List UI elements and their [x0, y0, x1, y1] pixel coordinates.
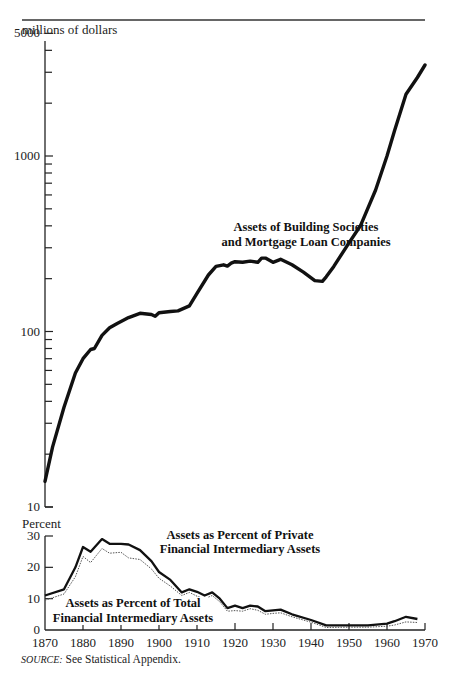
total-annotation-line2: Financial Intermediary Assets — [53, 611, 214, 625]
building-societies-assets-line — [45, 65, 425, 481]
x-tick-label: 1930 — [260, 635, 286, 650]
upper-y-tick-labels: 5000100010010 — [14, 25, 40, 514]
x-tick-label: 1960 — [374, 635, 400, 650]
chart-figure: millions of dollars 5000100010010 Assets… — [0, 0, 452, 687]
x-tick-label: 1910 — [184, 635, 210, 650]
source-text: See Statistical Appendix. — [63, 653, 181, 666]
y-tick-label: 20 — [27, 559, 40, 574]
lower-x-ticks: 1870188018901900191019201930194019501960… — [32, 623, 438, 650]
upper-annotation-line1: Assets of Building Societies — [234, 220, 379, 234]
upper-chart: millions of dollars 5000100010010 Assets… — [14, 22, 425, 514]
lower-chart: Percent 0102030 187018801890190019101920… — [22, 516, 438, 650]
source-label: SOURCE: — [21, 654, 63, 665]
source-note: SOURCE: See Statistical Appendix. — [21, 653, 181, 666]
y-tick-label: 30 — [27, 528, 40, 543]
x-tick-label: 1940 — [298, 635, 324, 650]
x-tick-label: 1900 — [146, 635, 172, 650]
upper-y-ticks — [45, 33, 53, 507]
lower-y-ticks: 0102030 — [27, 528, 53, 637]
y-tick-label: 1000 — [14, 148, 40, 163]
y-tick-label: 100 — [21, 324, 41, 339]
y-tick-label: 5000 — [14, 25, 40, 40]
upper-annotation-line2: and Mortgage Loan Companies — [221, 235, 390, 249]
private-annotation-line1: Assets as Percent of Private — [167, 528, 314, 542]
x-tick-label: 1870 — [32, 635, 58, 650]
x-tick-label: 1890 — [108, 635, 134, 650]
total-annotation-line1: Assets as Percent of Total — [65, 596, 201, 610]
x-tick-label: 1920 — [222, 635, 248, 650]
private-annotation-line2: Financial Intermediary Assets — [160, 542, 321, 556]
y-tick-label: 10 — [27, 499, 40, 514]
x-tick-label: 1950 — [336, 635, 362, 650]
x-tick-label: 1880 — [70, 635, 96, 650]
y-tick-label: 10 — [27, 591, 40, 606]
x-tick-label: 1970 — [412, 635, 438, 650]
